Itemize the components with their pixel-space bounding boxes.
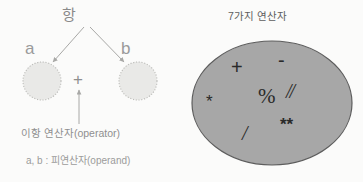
- operator-symbol-subtraction: -: [278, 50, 285, 70]
- operators-title: 7가지 연산자: [228, 11, 287, 22]
- operator-plus-symbol: +: [73, 71, 83, 88]
- term-label: 항: [62, 7, 76, 22]
- page-root: 항 a b + 이항 연산자(operator) a, b : 피연산자(ope…: [0, 0, 363, 182]
- operand-caption: a, b : 피연산자(operand): [26, 156, 130, 166]
- operand-a-label: a: [25, 40, 34, 57]
- binary-operator-diagram: 항 a b + 이항 연산자(operator) a, b : 피연산자(ope…: [0, 0, 182, 182]
- operator-symbol-division: /: [242, 123, 248, 143]
- operand-a-circle: [23, 62, 61, 100]
- arrow-term-to-b: [90, 27, 124, 62]
- operator-symbol-floor-division: //: [286, 81, 293, 101]
- operand-b-circle: [119, 62, 157, 100]
- operator-symbol-modulo: %: [258, 86, 276, 107]
- arrow-term-to-a: [53, 27, 84, 62]
- operator-symbol-multiplication: *: [206, 93, 213, 110]
- operator-symbol-exponent: **: [280, 116, 293, 133]
- operators-set-diagram: 7가지 연산자 + - * % // / **: [182, 0, 363, 182]
- operator-symbol-addition: +: [231, 57, 243, 77]
- operand-b-label: b: [121, 40, 130, 57]
- operator-caption: 이항 연산자(operator): [21, 128, 120, 139]
